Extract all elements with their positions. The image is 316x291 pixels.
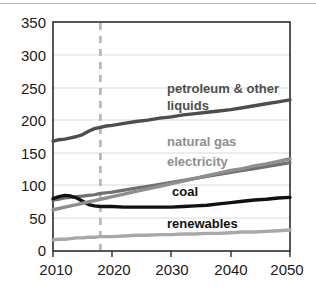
line-chart: 350 300 250 200 150 100 50 0 — [0, 0, 316, 291]
series-label-coal: coal — [172, 184, 198, 199]
y-tick-label-350: 350 — [21, 14, 46, 31]
y-axis-tick-labels: 350 300 250 200 150 100 50 0 — [21, 14, 46, 259]
series-label-petroleum-line2: liquids — [167, 98, 209, 113]
series-label-natural-gas: natural gas — [167, 134, 236, 149]
series-label-electricity: electricity — [167, 154, 228, 169]
x-tick-label-2010: 2010 — [39, 261, 72, 278]
x-tick-label-2040: 2040 — [214, 261, 247, 278]
y-tick-label-300: 300 — [21, 47, 46, 64]
x-tick-label-2030: 2030 — [155, 261, 188, 278]
series-label-petroleum-line1: petroleum & other — [167, 81, 279, 96]
series-label-renewables: renewables — [167, 216, 238, 231]
y-tick-label-200: 200 — [21, 112, 46, 129]
series-line-renewables — [53, 230, 290, 240]
x-tick-label-2050: 2050 — [270, 261, 303, 278]
chart-figure: 350 300 250 200 150 100 50 0 — [0, 0, 316, 291]
y-tick-label-250: 250 — [21, 80, 46, 97]
y-tick-label-100: 100 — [21, 177, 46, 194]
x-axis-tickmarks — [53, 251, 290, 257]
x-tick-label-2020: 2020 — [97, 261, 130, 278]
x-axis-tick-labels: 2010 2020 2030 2040 2050 — [39, 261, 303, 278]
y-tick-label-150: 150 — [21, 145, 46, 162]
y-tick-label-50: 50 — [29, 210, 46, 227]
y-tick-label-0: 0 — [38, 242, 46, 259]
